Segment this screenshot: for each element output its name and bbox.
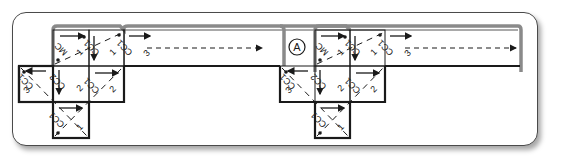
- label-index: 3: [141, 48, 152, 59]
- marker-a: A: [289, 39, 305, 55]
- label-index: 2: [368, 84, 379, 95]
- cell-cc1-strip: CC1 3: [115, 36, 262, 58]
- dot-icon: [343, 35, 347, 39]
- dot-icon: [378, 33, 382, 37]
- fold-lip: [280, 26, 284, 66]
- group-left: MC 1 CC1 1 CC1 3 CC1 3 CC2: [16, 26, 521, 138]
- dot-icon: [56, 131, 60, 135]
- marker-label: A: [293, 41, 301, 53]
- label-cc1: CC1: [82, 38, 102, 58]
- cell-cc1: CC1 2: [82, 73, 118, 96]
- label-index: 3: [402, 48, 413, 59]
- label-cc2: CC2: [48, 72, 68, 92]
- dot-icon: [56, 58, 60, 62]
- label-index: 1: [335, 122, 346, 133]
- dot-icon: [284, 70, 288, 74]
- group-right: A MC 1 CC1 1 CC1 3 CC1 3: [278, 26, 520, 138]
- label-cc1: CC1: [82, 76, 102, 96]
- dot-icon: [117, 33, 121, 37]
- label-index: 1: [368, 47, 379, 58]
- dot-icon: [318, 58, 322, 62]
- dot-icon: [318, 131, 322, 135]
- label-cc2: CC2: [309, 72, 329, 92]
- label-cc1: CC1: [343, 76, 363, 96]
- label-cc1: CC1: [376, 38, 396, 58]
- label-index: 1: [107, 47, 118, 58]
- label-index: 2: [107, 84, 118, 95]
- cell-cc1: CC1 3: [278, 70, 308, 95]
- label-index: 1: [74, 47, 85, 58]
- dot-icon: [82, 35, 86, 39]
- cell-cc2: CC2 2: [309, 70, 346, 94]
- label-cc1: CC1: [115, 38, 135, 58]
- label-index: 1: [335, 47, 346, 58]
- cell-cc1: CC1 3: [16, 70, 46, 95]
- label-index: 1: [74, 122, 85, 133]
- dot-icon: [22, 70, 26, 74]
- label-cc1: CC1: [343, 38, 363, 58]
- fold-diagram: MC 1 CC1 1 CC1 3 CC1 3 CC2: [0, 0, 562, 160]
- label-cc1: CC1: [309, 110, 329, 130]
- cell-cc1: CC1 2: [343, 73, 379, 96]
- cell-cc1-strip: CC1 3: [376, 36, 516, 58]
- label-cc1: CC1: [47, 110, 67, 130]
